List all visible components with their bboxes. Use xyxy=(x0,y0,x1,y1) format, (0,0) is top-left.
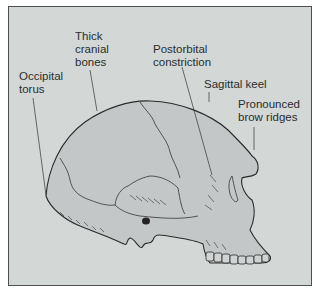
label-postorbital-constriction: Postorbitalconstriction xyxy=(153,43,211,69)
label-pronounced-brow-ridges: Pronouncedbrow ridges xyxy=(238,98,300,124)
ear-opening xyxy=(142,218,150,225)
label-thick-cranial-bones: Thickcranialbones xyxy=(75,30,109,69)
cranium-outline xyxy=(46,101,271,263)
label-sagittal-keel: Sagittal keel xyxy=(204,78,267,91)
label-occipital-torus: Occipitaltorus xyxy=(19,70,63,96)
